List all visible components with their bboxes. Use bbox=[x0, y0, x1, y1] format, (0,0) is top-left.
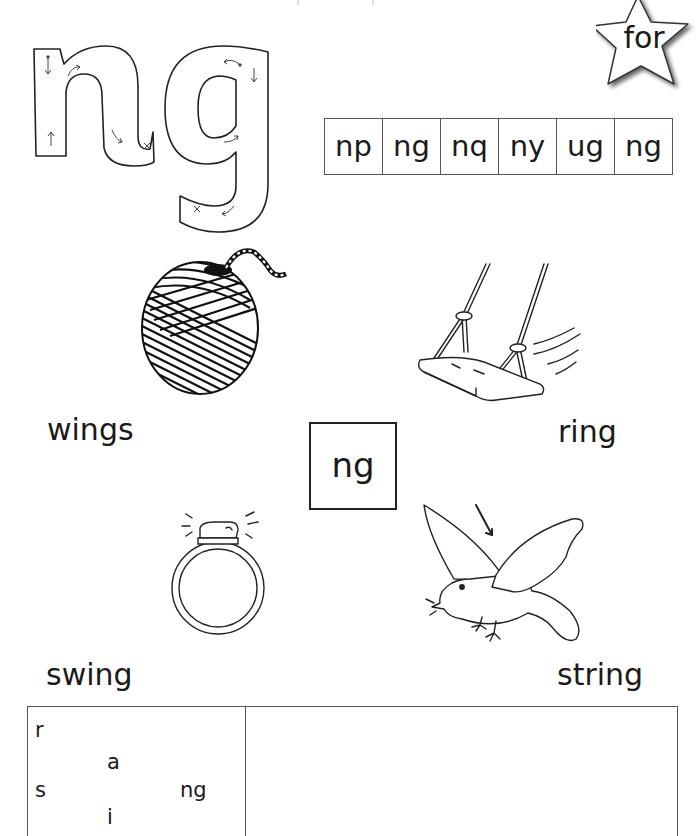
word-writing-area[interactable] bbox=[247, 708, 676, 825]
activity-divider bbox=[245, 706, 246, 836]
swing-icon[interactable] bbox=[400, 262, 590, 412]
letter-formation-outline bbox=[28, 36, 278, 236]
blend-ending-ng: ng bbox=[180, 778, 207, 802]
blend-vowel-i: i bbox=[107, 805, 113, 829]
focus-grapheme-box: ng bbox=[309, 422, 397, 510]
bird-icon[interactable] bbox=[410, 495, 590, 650]
letter-choice-cell[interactable]: ng bbox=[615, 119, 673, 175]
letter-choice-cell[interactable]: ng bbox=[383, 119, 441, 175]
blend-onset-r: r bbox=[35, 718, 44, 742]
blend-onset-s: s bbox=[35, 778, 46, 802]
word-ring[interactable]: ring bbox=[558, 414, 617, 450]
letter-choice-row: np ng nq ny ug ng bbox=[325, 119, 673, 175]
word-wings[interactable]: wings bbox=[47, 412, 134, 448]
letter-choice-cell[interactable]: ug bbox=[557, 119, 615, 175]
tricky-word-label: for bbox=[619, 18, 669, 58]
word-string[interactable]: string bbox=[557, 657, 643, 693]
word-swing[interactable]: swing bbox=[46, 657, 133, 693]
page-edge-marks bbox=[290, 0, 470, 8]
ball-of-string-icon[interactable] bbox=[130, 240, 300, 400]
letter-choice-cell[interactable]: np bbox=[325, 119, 383, 175]
ring-icon[interactable] bbox=[160, 508, 280, 638]
blend-vowel-a: a bbox=[107, 750, 120, 774]
letter-choice-table: np ng nq ny ug ng bbox=[324, 118, 673, 175]
letter-choice-cell[interactable]: nq bbox=[441, 119, 499, 175]
letter-choice-cell[interactable]: ny bbox=[499, 119, 557, 175]
